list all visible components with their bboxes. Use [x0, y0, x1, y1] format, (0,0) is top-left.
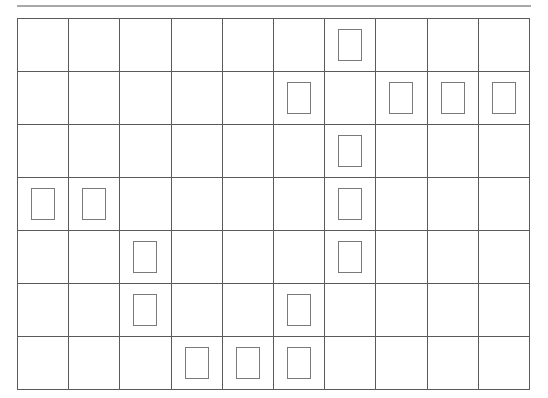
grid-cell[interactable]: [120, 337, 171, 390]
grid-cell[interactable]: [274, 125, 325, 178]
grid-cell[interactable]: [69, 125, 120, 178]
grid-cell[interactable]: [428, 231, 479, 284]
rectangle-marker-icon: [287, 294, 311, 326]
grid-cell[interactable]: [18, 72, 69, 125]
grid-cell[interactable]: [18, 231, 69, 284]
grid-cell[interactable]: [376, 72, 427, 125]
rectangle-marker-icon: [133, 241, 157, 273]
grid-cell[interactable]: [69, 19, 120, 72]
grid-cell[interactable]: [376, 231, 427, 284]
grid-cell[interactable]: [376, 178, 427, 231]
grid-cell[interactable]: [325, 231, 376, 284]
grid-cell[interactable]: [479, 19, 530, 72]
rectangle-marker-icon: [287, 82, 311, 114]
grid-cell[interactable]: [172, 72, 223, 125]
rectangle-marker-icon: [338, 241, 362, 273]
rectangle-marker-icon: [441, 82, 465, 114]
grid-cell[interactable]: [274, 231, 325, 284]
grid-cell[interactable]: [223, 337, 274, 390]
grid-cell[interactable]: [69, 178, 120, 231]
grid-cell[interactable]: [325, 284, 376, 337]
rectangle-marker-icon: [133, 294, 157, 326]
grid-cell[interactable]: [376, 125, 427, 178]
rectangle-marker-icon: [185, 347, 209, 379]
grid-cell[interactable]: [325, 178, 376, 231]
grid-cell[interactable]: [428, 72, 479, 125]
top-divider: [17, 5, 531, 7]
grid-cell[interactable]: [18, 178, 69, 231]
grid-cell[interactable]: [172, 284, 223, 337]
grid-cell[interactable]: [120, 178, 171, 231]
grid-cell[interactable]: [479, 72, 530, 125]
grid-cell[interactable]: [479, 231, 530, 284]
grid-cell[interactable]: [223, 231, 274, 284]
grid-cell[interactable]: [428, 19, 479, 72]
grid-cell[interactable]: [69, 231, 120, 284]
grid-cell[interactable]: [69, 337, 120, 390]
grid-cell[interactable]: [120, 19, 171, 72]
grid-cell[interactable]: [274, 72, 325, 125]
grid-cell[interactable]: [223, 284, 274, 337]
grid-cell[interactable]: [18, 125, 69, 178]
grid-cell[interactable]: [376, 19, 427, 72]
rectangle-marker-icon: [82, 188, 106, 220]
rectangle-marker-icon: [287, 347, 311, 379]
grid-cell[interactable]: [172, 337, 223, 390]
grid-cell[interactable]: [325, 337, 376, 390]
grid-cell[interactable]: [428, 125, 479, 178]
grid-cell[interactable]: [172, 178, 223, 231]
grid-cell[interactable]: [479, 125, 530, 178]
grid-cell[interactable]: [223, 19, 274, 72]
grid-cell[interactable]: [69, 284, 120, 337]
grid-cell[interactable]: [479, 284, 530, 337]
rectangle-marker-icon: [338, 29, 362, 61]
grid-cell[interactable]: [325, 125, 376, 178]
rectangle-marker-icon: [492, 82, 516, 114]
grid-cell[interactable]: [274, 337, 325, 390]
grid-cell[interactable]: [479, 178, 530, 231]
grid-cell[interactable]: [274, 19, 325, 72]
grid-cell[interactable]: [428, 178, 479, 231]
rectangle-marker-icon: [31, 188, 55, 220]
grid-cell[interactable]: [274, 284, 325, 337]
grid-cell[interactable]: [325, 72, 376, 125]
rectangle-marker-icon: [389, 82, 413, 114]
grid-cell[interactable]: [18, 19, 69, 72]
cell-grid: [17, 18, 530, 390]
grid-cell[interactable]: [120, 284, 171, 337]
grid-cell[interactable]: [274, 178, 325, 231]
grid-cell[interactable]: [325, 19, 376, 72]
grid-cell[interactable]: [428, 284, 479, 337]
grid-cell[interactable]: [172, 19, 223, 72]
grid-cell[interactable]: [18, 337, 69, 390]
grid-cell[interactable]: [18, 284, 69, 337]
grid-cell[interactable]: [428, 337, 479, 390]
grid-cell[interactable]: [376, 337, 427, 390]
grid-cell[interactable]: [120, 72, 171, 125]
grid-cell[interactable]: [223, 125, 274, 178]
grid-cell[interactable]: [172, 231, 223, 284]
rectangle-marker-icon: [338, 188, 362, 220]
grid-cell[interactable]: [172, 125, 223, 178]
grid-cell[interactable]: [479, 337, 530, 390]
grid-cell[interactable]: [376, 284, 427, 337]
rectangle-marker-icon: [338, 135, 362, 167]
grid-cell[interactable]: [120, 125, 171, 178]
grid-cell[interactable]: [223, 178, 274, 231]
grid-cell[interactable]: [223, 72, 274, 125]
rectangle-marker-icon: [236, 347, 260, 379]
grid-cell[interactable]: [69, 72, 120, 125]
grid-cell[interactable]: [120, 231, 171, 284]
